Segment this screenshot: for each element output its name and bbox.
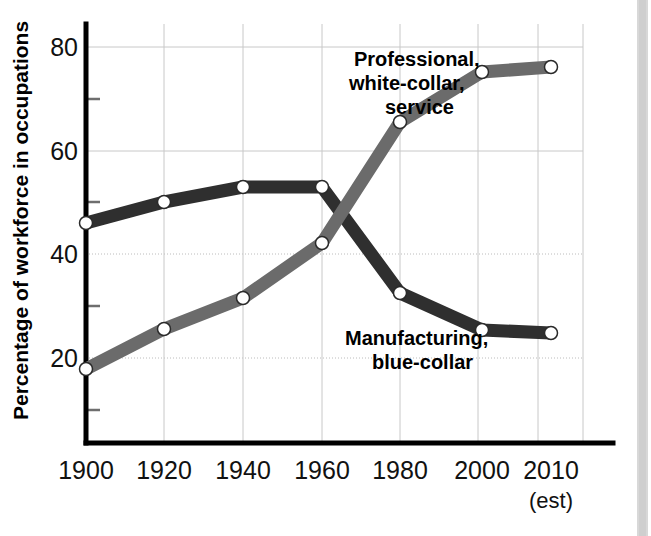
data-point-marker — [80, 217, 93, 230]
data-point-marker — [394, 287, 407, 300]
data-point-marker — [545, 61, 558, 74]
annotation-professional-line-1: Professional, — [354, 48, 480, 70]
data-point-marker — [316, 181, 329, 194]
y-tick-label-20: 20 — [50, 344, 78, 372]
chart-figure: 80 60 40 20 1900 1920 1940 1960 1980 200… — [0, 0, 651, 536]
data-point-marker — [316, 237, 329, 250]
annotation-manufacturing-line-1: Manufacturing, — [345, 327, 488, 349]
annotation-manufacturing: Manufacturing, blue-collar — [345, 327, 488, 373]
annotation-professional: Professional, white-collar, service — [348, 48, 480, 118]
series-manufacturing-line — [86, 187, 551, 333]
x-tick-label-2000: 2000 — [454, 456, 510, 484]
x-tick-estimate-note: (est) — [529, 488, 573, 513]
series-manufacturing-blue-collar — [80, 181, 558, 340]
x-tick-label-1980: 1980 — [372, 456, 428, 484]
x-tick-labels: 1900 1920 1940 1960 1980 2000 2010 (est) — [58, 456, 579, 513]
x-tick-label-2010: 2010 — [523, 456, 579, 484]
annotation-manufacturing-line-2: blue-collar — [372, 351, 473, 373]
data-point-marker — [237, 181, 250, 194]
page-right-border-strip-inner — [639, 0, 646, 536]
x-tick-label-1940: 1940 — [215, 456, 271, 484]
data-point-marker — [158, 323, 171, 336]
x-tick-label-1920: 1920 — [136, 456, 192, 484]
line-chart-canvas: 80 60 40 20 1900 1920 1940 1960 1980 200… — [0, 0, 651, 536]
data-point-marker — [80, 363, 93, 376]
x-tick-label-1900: 1900 — [58, 456, 114, 484]
y-tick-labels: 80 60 40 20 — [50, 33, 78, 372]
y-tick-label-40: 40 — [50, 240, 78, 268]
y-axis-title: Percentage of workforce in occupations — [9, 21, 32, 420]
y-tick-label-60: 60 — [50, 137, 78, 165]
data-point-marker — [237, 292, 250, 305]
data-point-marker — [158, 196, 171, 209]
annotation-professional-line-3: service — [385, 96, 454, 118]
y-tick-label-80: 80 — [50, 33, 78, 61]
data-point-marker — [545, 327, 558, 340]
annotation-professional-line-2: white-collar, — [348, 72, 465, 94]
x-tick-label-1960: 1960 — [294, 456, 350, 484]
